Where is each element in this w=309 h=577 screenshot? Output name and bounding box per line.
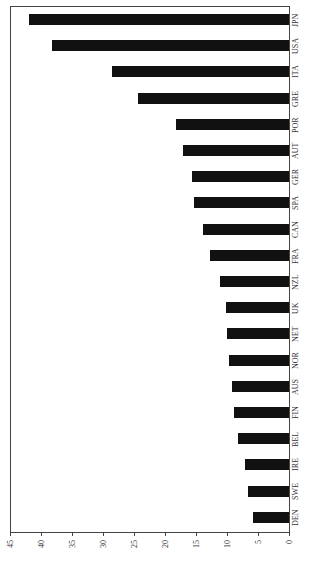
bar-ita (112, 66, 289, 77)
bar-por (176, 119, 289, 130)
category-label: SWE (291, 482, 307, 502)
bar-gre (138, 93, 289, 104)
tick-label: 30 (99, 540, 108, 548)
bar-fra (210, 250, 289, 261)
tick-label: 40 (37, 540, 46, 548)
category-label: UK (291, 298, 307, 318)
category-label: BEL (291, 429, 307, 449)
tick-mark (227, 533, 228, 536)
tick-label: 25 (130, 540, 139, 548)
bar-spa (194, 197, 289, 208)
category-label: DEN (291, 508, 307, 528)
category-label: AUT (291, 141, 307, 161)
category-label: GRE (291, 89, 307, 109)
tick-label: 10 (223, 540, 232, 548)
category-label: SPA (291, 193, 307, 213)
tick-mark (134, 533, 135, 536)
category-label: AUS (291, 377, 307, 397)
tick-label: 15 (192, 540, 201, 548)
category-label: GER (291, 167, 307, 187)
bar-net (227, 328, 289, 339)
bar-den (253, 512, 289, 523)
tick-mark (41, 533, 42, 536)
tick-mark (258, 533, 259, 536)
bar-can (203, 224, 289, 235)
tick-mark (165, 533, 166, 536)
category-label: ITA (291, 62, 307, 82)
bar-fin (234, 407, 289, 418)
bar-usa (52, 40, 289, 51)
bar-aut (183, 145, 289, 156)
tick-label: 20 (161, 540, 170, 548)
bar-nzl (220, 276, 289, 287)
category-label: NOR (291, 351, 307, 371)
category-label: FRA (291, 246, 307, 266)
bar-nor (229, 355, 289, 366)
category-label: NET (291, 324, 307, 344)
tick-label: 0 (285, 540, 294, 544)
tick-label: 45 (6, 540, 15, 548)
category-label: CAN (291, 220, 307, 240)
tick-mark (103, 533, 104, 536)
tick-label: 5 (254, 540, 263, 544)
category-label: POR (291, 115, 307, 135)
category-label: NZL (291, 272, 307, 292)
bar-jpn (29, 14, 289, 25)
bar-bel (238, 433, 289, 444)
category-label: JPN (291, 10, 307, 30)
category-axis (289, 6, 290, 533)
category-label: FIN (291, 403, 307, 423)
bar-ger (192, 171, 289, 182)
tick-label: 35 (68, 540, 77, 548)
plot-area (10, 6, 289, 533)
category-label: USA (291, 36, 307, 56)
tick-mark (72, 533, 73, 536)
bar-aus (232, 381, 289, 392)
tick-mark (289, 533, 290, 536)
tick-mark (196, 533, 197, 536)
bar-ire (245, 459, 289, 470)
tick-mark (10, 533, 11, 536)
bar-swe (248, 486, 289, 497)
category-label: IRE (291, 455, 307, 475)
bar-uk (226, 302, 289, 313)
